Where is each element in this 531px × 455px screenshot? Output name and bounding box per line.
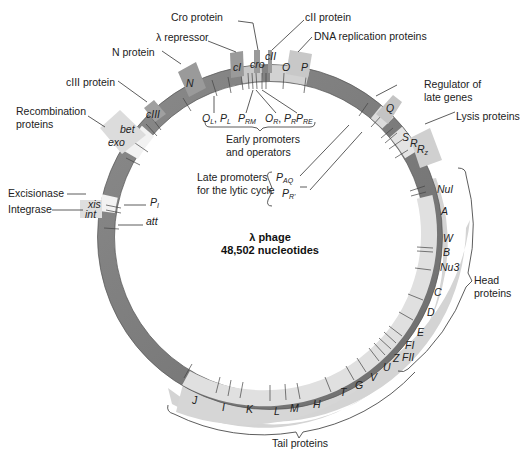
- gene-S: S: [402, 131, 409, 143]
- gene-Nul: Nul: [437, 183, 453, 195]
- label-lysis: Lysis proteins: [456, 110, 520, 122]
- gene-B: B: [443, 246, 450, 258]
- gene-cI: cI: [233, 61, 241, 73]
- ring-int-segment: [107, 196, 110, 212]
- label-excisionase: Excisionase: [8, 187, 64, 199]
- label-regulator-1: Regulator of: [424, 78, 481, 90]
- label-cII-protein: cII protein: [305, 11, 351, 23]
- early-promoter-labels: OL, PL PRM OR, PR PRE: [202, 112, 313, 125]
- promoter-PRE: PRE: [296, 112, 313, 125]
- promoter-PR-prime: PR': [282, 187, 296, 200]
- label-integrase: Integrase: [8, 203, 52, 215]
- gene-FII: FII: [402, 351, 414, 363]
- gene-D: D: [427, 306, 435, 318]
- gene-U: U: [383, 361, 391, 373]
- gene-M: M: [290, 402, 299, 414]
- gene-Z: Z: [392, 352, 400, 364]
- label-early-2: and operators: [226, 146, 291, 158]
- lambda-phage-genome-map: N cIII bet exo cI cro cII O P Q S R Rz x…: [0, 0, 531, 455]
- gene-H: H: [313, 398, 321, 410]
- label-cIII-protein: cIII protein: [66, 76, 115, 88]
- gene-cIII: cIII: [146, 108, 160, 120]
- label-early-1: Early promoters: [226, 133, 300, 145]
- gene-C: C: [434, 286, 442, 298]
- promoter-PAQ: PAQ: [276, 171, 294, 185]
- operator-OR: OR, PR: [265, 112, 296, 125]
- gene-J: J: [191, 394, 198, 406]
- gene-att: att: [146, 215, 159, 227]
- gene-E: E: [417, 326, 425, 338]
- gene-cro: cro: [250, 58, 265, 70]
- ring-cI-cro-region: [241, 73, 262, 76]
- gene-L: L: [274, 405, 280, 417]
- promoter-PI: PI: [150, 196, 159, 209]
- promoter-PRM: PRM: [238, 112, 256, 125]
- label-tail: Tail proteins: [272, 437, 328, 449]
- gene-N: N: [186, 77, 194, 89]
- gene-Q: Q: [386, 102, 394, 114]
- gene-O: O: [282, 61, 290, 73]
- late-promoter-labels: PAQ PR': [276, 171, 296, 200]
- label-lambda-repressor: λ repressor: [156, 31, 209, 43]
- center-subtitle: 48,502 nucleotides: [221, 244, 319, 256]
- label-head-2: proteins: [474, 287, 511, 299]
- label-dna-replication: DNA replication proteins: [314, 30, 427, 42]
- gene-I: I: [222, 401, 225, 413]
- center-title: λ phage: [249, 231, 291, 243]
- label-head-1: Head: [474, 274, 499, 286]
- label-late-2: for the lytic cycle: [197, 184, 275, 196]
- label-cro-protein: Cro protein: [171, 11, 223, 23]
- gene-cII: cII: [265, 50, 276, 62]
- operator-OL: OL, PL: [202, 112, 231, 125]
- gene-A: A: [440, 205, 448, 217]
- gene-G: G: [355, 379, 363, 391]
- gene-exo: exo: [108, 136, 125, 148]
- gene-K: K: [246, 403, 254, 415]
- gene-bet: bet: [120, 123, 136, 135]
- gene-P: P: [301, 61, 308, 73]
- gene-V: V: [370, 371, 378, 383]
- gene-Nu3: Nu3: [440, 261, 459, 273]
- gene-FI: FI: [405, 339, 414, 351]
- label-n-protein: N protein: [112, 46, 155, 58]
- label-recombination-1: Recombination: [16, 105, 86, 117]
- label-late-1: Late promoters: [197, 171, 268, 183]
- label-regulator-2: late genes: [424, 91, 472, 103]
- label-recombination-2: proteins: [16, 118, 53, 130]
- gene-W: W: [443, 232, 454, 244]
- gene-int: int: [85, 208, 97, 220]
